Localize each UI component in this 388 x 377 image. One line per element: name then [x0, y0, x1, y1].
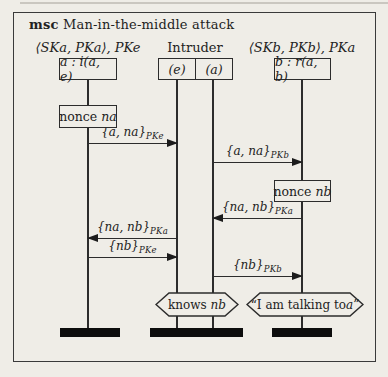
message-line	[88, 143, 177, 144]
msc-keyword: msc	[29, 17, 59, 32]
action-nonce-nb: noncenb	[274, 180, 331, 202]
endbar-b	[272, 328, 332, 337]
endbar-a	[60, 328, 120, 337]
condition-text: “I am talking to a”	[246, 292, 364, 317]
intruder-role-e: (e)	[159, 59, 196, 79]
message-label: {na, nb}PKa	[88, 220, 177, 236]
message-line	[213, 162, 302, 163]
instance-intruder-header: Intruder	[154, 40, 236, 56]
message-label: {na, nb}PKa	[213, 200, 302, 216]
message-line	[213, 218, 302, 219]
condition-knows-nb: knowsnb	[155, 292, 239, 317]
nonce-nb-var: nb	[315, 184, 331, 199]
arrowhead-right-icon	[167, 139, 178, 147]
condition-talking-to-a: “I am talking to a”	[246, 292, 364, 317]
message-label: {a, na}PKb	[213, 144, 302, 160]
condition-text: knowsnb	[155, 292, 239, 317]
arrowhead-left-icon	[212, 214, 223, 222]
message-label: {nb}PKe	[88, 239, 177, 255]
action-nonce-na: noncena	[59, 105, 117, 128]
diagram-title: msc Man-in-the-middle attack	[29, 17, 234, 32]
nonce-na-label: nonce	[59, 109, 97, 124]
scanned-page-background: msc Man-in-the-middle attack ⟨SKa, PKa⟩,…	[0, 0, 388, 377]
scan-artifact-line	[20, 2, 388, 4]
message-label: {nb}PKb	[213, 258, 302, 274]
nonce-nb-label: nonce	[273, 184, 311, 199]
arrowhead-right-icon	[292, 158, 303, 166]
intruder-role-a: (a)	[196, 59, 232, 79]
instance-a-box: a : i(a, e)	[59, 58, 117, 80]
instance-b-box: b : r(a, b)	[274, 58, 331, 80]
msc-title-text: Man-in-the-middle attack	[59, 17, 235, 32]
arrowhead-right-icon	[167, 253, 178, 261]
nonce-na-var: na	[101, 109, 117, 124]
arrowhead-right-icon	[292, 272, 303, 280]
instance-intruder-box: (e) (a)	[158, 58, 233, 80]
message-line	[213, 276, 302, 277]
endbar-intruder	[150, 328, 243, 337]
message-line	[88, 257, 177, 258]
